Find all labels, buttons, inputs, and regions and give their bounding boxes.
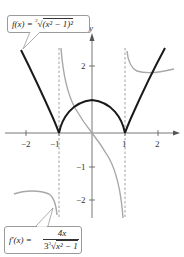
fprime-callout-pointer xyxy=(0,0,184,257)
